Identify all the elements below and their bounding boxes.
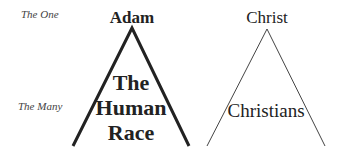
christ-triangle [207, 29, 325, 146]
human-race-label: The Human Race [96, 70, 167, 145]
human-race-line-2: Human [96, 95, 167, 120]
triangles-diagram [0, 0, 340, 157]
human-race-line-3: Race [96, 120, 167, 145]
christians-label: Christians [227, 101, 304, 120]
human-race-line-1: The [96, 70, 167, 95]
